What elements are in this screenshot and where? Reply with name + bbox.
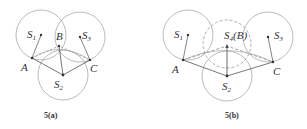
dashed-path <box>183 46 273 62</box>
point-s2 <box>62 74 65 77</box>
edge-s3-c <box>268 37 273 62</box>
point-s3 <box>267 36 269 38</box>
diagram-canvas: S1 S3 S2 A B C 5(a) S1 S3 S4(B) S2 A <box>0 0 307 129</box>
point-a <box>31 57 33 59</box>
label-a: A <box>171 63 179 75</box>
point-s3 <box>79 36 81 38</box>
edge-a-s2 <box>183 60 227 76</box>
label-c: C <box>90 62 98 74</box>
figure-5a: S1 S3 S2 A B C 5(a) <box>16 10 105 120</box>
point-s2 <box>226 75 229 78</box>
caption-5a: 5(a) <box>44 111 58 120</box>
label-s1: S1 <box>174 28 183 42</box>
label-c: C <box>273 65 281 77</box>
label-s3: S3 <box>274 29 284 43</box>
label-s4-b: S4(B) <box>224 29 247 43</box>
point-c <box>89 59 91 61</box>
point-b <box>58 45 60 47</box>
point-a <box>182 59 184 61</box>
figure-5b: S1 S3 S4(B) S2 A C 5(b) <box>163 10 293 120</box>
label-s3: S3 <box>82 29 92 43</box>
label-s2: S2 <box>54 78 64 92</box>
edge-c-s2 <box>63 60 90 75</box>
label-b: B <box>56 30 63 42</box>
label-s2: S2 <box>222 80 232 94</box>
point-c <box>272 61 274 63</box>
edge-s1-a <box>183 35 188 60</box>
label-a: A <box>20 61 28 73</box>
edge-c-s2 <box>227 62 273 76</box>
label-s1: S1 <box>27 28 36 42</box>
point-s1 <box>40 34 42 36</box>
edge-a-s2 <box>32 58 63 75</box>
point-s1 <box>187 34 189 36</box>
caption-5b: 5(b) <box>225 111 239 120</box>
